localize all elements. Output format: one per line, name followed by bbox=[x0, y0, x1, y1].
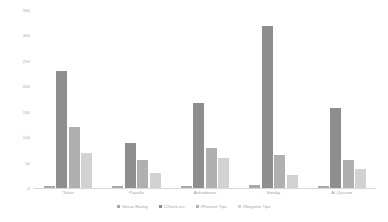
bar[interactable] bbox=[343, 160, 354, 188]
bar[interactable] bbox=[355, 169, 366, 188]
legend-item[interactable]: #Positive Tips bbox=[196, 204, 227, 209]
x-axis-tick-label: Ashadenos bbox=[174, 190, 236, 202]
legend-item[interactable]: Venue Rating bbox=[117, 204, 147, 209]
x-axis-tick-label: Steaky bbox=[243, 190, 305, 202]
bar[interactable] bbox=[137, 160, 148, 188]
bar[interactable] bbox=[218, 158, 229, 189]
y-axis: 050100150200250300350 bbox=[0, 10, 30, 188]
x-axis-tick-label: Al-Qaisum bbox=[311, 190, 373, 202]
y-axis-tick-label: 0 bbox=[28, 186, 30, 191]
legend-label: #Positive Tips bbox=[200, 204, 227, 209]
bar[interactable] bbox=[206, 148, 217, 188]
legend-swatch-icon bbox=[238, 205, 241, 208]
y-axis-tick-label: 300 bbox=[23, 33, 30, 38]
legend-item[interactable]: #Negative Tips bbox=[238, 204, 271, 209]
bar-group bbox=[311, 10, 373, 188]
bar[interactable] bbox=[193, 103, 204, 188]
legend-swatch-icon bbox=[117, 205, 120, 208]
x-axis-baseline bbox=[34, 188, 376, 189]
y-axis-tick-label: 350 bbox=[23, 8, 30, 13]
bar-group bbox=[243, 10, 305, 188]
bar-group bbox=[174, 10, 236, 188]
bar-group bbox=[37, 10, 99, 188]
bar[interactable] bbox=[44, 186, 55, 188]
bar[interactable] bbox=[287, 175, 298, 188]
bar-group bbox=[106, 10, 168, 188]
y-axis-tick-label: 200 bbox=[23, 84, 30, 89]
bar[interactable] bbox=[150, 173, 161, 188]
bar[interactable] bbox=[56, 71, 67, 188]
y-axis-tick-label: 100 bbox=[23, 135, 30, 140]
x-axis-tick-label: Tahat bbox=[37, 190, 99, 202]
bar[interactable] bbox=[318, 186, 329, 188]
legend-label: #Check-ins bbox=[163, 204, 184, 209]
bar[interactable] bbox=[274, 155, 285, 188]
x-axis-category-labels: TahatPazallaAshadenosSteakyAl-Qaisum bbox=[34, 190, 376, 202]
bar[interactable] bbox=[181, 186, 192, 188]
bar[interactable] bbox=[69, 127, 80, 188]
bar[interactable] bbox=[262, 26, 273, 188]
y-axis-tick-label: 250 bbox=[23, 58, 30, 63]
legend-swatch-icon bbox=[196, 205, 199, 208]
legend-label: Venue Rating bbox=[122, 204, 148, 209]
bar[interactable] bbox=[330, 108, 341, 188]
bar[interactable] bbox=[81, 153, 92, 188]
bar-chart: 050100150200250300350 TahatPazallaAshade… bbox=[0, 0, 388, 222]
legend-item[interactable]: #Check-ins bbox=[159, 204, 185, 209]
legend-swatch-icon bbox=[159, 205, 162, 208]
chart-legend: Venue Rating#Check-ins#Positive Tips#Neg… bbox=[0, 204, 388, 209]
legend-label: #Negative Tips bbox=[242, 204, 270, 209]
plot-area bbox=[34, 10, 376, 188]
bar[interactable] bbox=[249, 185, 260, 188]
y-axis-tick-label: 150 bbox=[23, 109, 30, 114]
bar[interactable] bbox=[112, 186, 123, 188]
bar[interactable] bbox=[125, 143, 136, 188]
x-axis-tick-label: Pazalla bbox=[106, 190, 168, 202]
y-axis-tick-label: 50 bbox=[25, 160, 30, 165]
